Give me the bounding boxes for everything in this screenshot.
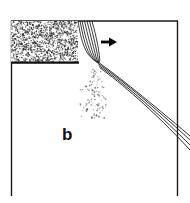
panel-label: b xyxy=(62,126,72,143)
granular-solid-block xyxy=(10,20,78,63)
figure-panel-b: b xyxy=(0,0,190,203)
figure-drawing xyxy=(0,0,190,203)
